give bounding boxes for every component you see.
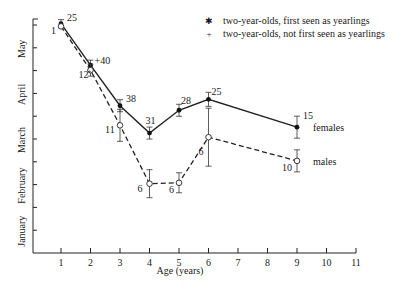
y-month-label: April [16,84,27,105]
female-point [177,108,182,113]
star-icon: ✱ [205,16,213,26]
sample-size-label: 38 [126,93,136,104]
series-label-males: males [313,156,336,167]
x-tick-label: 10 [322,257,332,268]
sample-size-label: 25 [212,86,222,97]
female-point [206,97,211,102]
axes [33,19,356,253]
female-point [295,125,300,130]
sample-size-label: +40 [95,55,111,66]
y-month-label: March [16,127,27,153]
sample-size-label: 6 [199,146,204,157]
male-point [58,24,64,30]
series-males: 1121166610 [51,24,300,198]
sample-size-label: 11 [105,124,115,135]
x-tick-label: 8 [265,257,270,268]
x-tick-label: 4 [147,257,152,268]
sample-size-label: 6 [169,184,174,195]
chart: JanuaryFebruaryMarchAprilMay 12345678910… [0,0,407,294]
legend-label: two-year-olds, not first seen as yearlin… [223,28,385,39]
male-point [206,134,212,140]
x-tick-label: 6 [206,257,211,268]
sample-size-label: 10 [282,162,292,173]
male-point [294,158,300,164]
male-point [117,123,123,129]
x-tick-labels: 1234567891011 [59,257,361,268]
x-tick-label: 1 [59,257,64,268]
legend: ✱two-year-olds, first seen as yearlings+… [205,15,385,39]
female-point [118,103,123,108]
plus-icon: + [206,29,211,39]
x-tick-label: 11 [351,257,361,268]
y-month-label: May [16,40,27,58]
sample-size-label: 31 [146,115,156,126]
plus-marker: + [88,68,92,76]
y-month-labels: JanuaryFebruaryMarchAprilMay [16,40,27,247]
x-axis-title: Age (years) [157,265,204,277]
female-point [147,131,152,136]
male-point [147,181,153,187]
sample-size-label: 1 [51,25,56,36]
x-tick-label: 7 [236,257,241,268]
series-label-females: females [313,122,344,133]
legend-label: two-year-olds, first seen as yearlings [223,15,370,26]
legend-item: ✱two-year-olds, first seen as yearlings [205,15,370,26]
sample-size-label: 25 [67,12,77,23]
y-month-label: January [16,216,27,247]
sample-size-label: 6 [138,183,143,194]
y-month-label: February [16,168,27,204]
legend-item: +two-year-olds, not first seen as yearli… [206,28,385,39]
male-point [176,180,182,186]
sample-size-label: 15 [303,110,313,121]
series-layer: 25+4038312825151121166610+femalesmales [51,12,344,198]
x-tick-label: 3 [118,257,123,268]
x-tick-label: 9 [295,257,300,268]
sample-size-label: 28 [181,95,191,106]
x-tick-label: 2 [88,257,93,268]
